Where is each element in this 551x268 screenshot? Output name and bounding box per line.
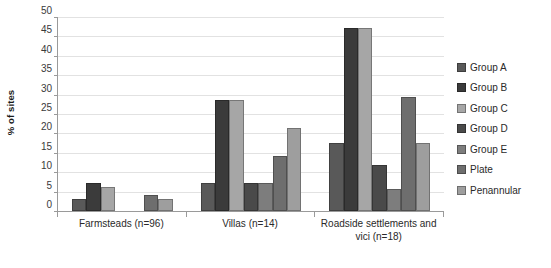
legend-item-label: Penannular — [470, 185, 521, 196]
y-axis-tick-label: 25 — [41, 103, 52, 113]
bar[interactable] — [158, 199, 172, 211]
plot-area — [57, 17, 444, 212]
bar-slot — [115, 17, 129, 211]
y-axis-tick-label: 35 — [41, 64, 52, 74]
legend-swatch-icon — [457, 104, 466, 113]
y-axis-tick-labels: 50454035302520151050 — [22, 11, 52, 211]
bar-slot — [416, 17, 430, 211]
y-axis-tick-label: 0 — [46, 200, 52, 210]
legend: Group AGroup BGroup CGroup DGroup EPlate… — [457, 57, 549, 201]
bar[interactable] — [358, 28, 372, 211]
x-axis-category-label: Roadside settlements and vici (n=18) — [314, 218, 443, 243]
bar-slot — [329, 17, 343, 211]
bar[interactable] — [401, 97, 415, 211]
y-axis-title: % of sites — [2, 0, 20, 225]
bar-slot — [401, 17, 415, 211]
bar[interactable] — [258, 183, 272, 211]
y-axis-tick-label: 15 — [41, 142, 52, 152]
bar-group — [315, 17, 444, 211]
legend-swatch-icon — [457, 145, 466, 154]
bar-slot — [158, 17, 172, 211]
legend-swatch-icon — [457, 83, 466, 92]
bar[interactable] — [416, 143, 430, 211]
legend-item[interactable]: Group D — [457, 119, 549, 140]
legend-item[interactable]: Penannular — [457, 180, 549, 201]
bar-slot — [387, 17, 401, 211]
y-axis-tick-label: 50 — [41, 6, 52, 16]
legend-item[interactable]: Group E — [457, 139, 549, 160]
y-axis-tick-label: 10 — [41, 161, 52, 171]
bar-slot — [72, 17, 86, 211]
bar-group — [187, 17, 316, 211]
x-axis-tick-mark — [186, 212, 187, 217]
y-axis-tick-label: 20 — [41, 122, 52, 132]
y-axis-title-label: % of sites — [6, 90, 17, 135]
bar[interactable] — [72, 199, 86, 211]
bar-slot — [372, 17, 386, 211]
legend-item-label: Group D — [470, 123, 508, 134]
bar-slot — [358, 17, 372, 211]
bar-slot — [287, 17, 301, 211]
legend-item-label: Plate — [470, 164, 493, 175]
bar[interactable] — [387, 189, 401, 211]
legend-swatch-icon — [457, 186, 466, 195]
x-axis-tick-marks — [57, 212, 444, 217]
x-axis-category-labels: Farmsteads (n=96)Villas (n=14)Roadside s… — [57, 218, 443, 243]
bar[interactable] — [201, 183, 215, 211]
bar[interactable] — [273, 156, 287, 211]
y-axis-tick-label: 40 — [41, 45, 52, 55]
legend-swatch-icon — [457, 63, 466, 72]
x-axis-tick-mark — [443, 212, 444, 217]
y-axis-tick-label: 45 — [41, 25, 52, 35]
legend-item[interactable]: Plate — [457, 160, 549, 181]
bar-slot — [101, 17, 115, 211]
x-axis-category-label: Villas (n=14) — [186, 218, 315, 243]
bar[interactable] — [344, 28, 358, 211]
legend-item[interactable]: Group A — [457, 57, 549, 78]
bar-slot — [144, 17, 158, 211]
x-axis-tick-mark — [314, 212, 315, 217]
legend-swatch-icon — [457, 165, 466, 174]
legend-item-label: Group C — [470, 103, 508, 114]
bar-chart: % of sites 50454035302520151050 Farmstea… — [0, 0, 551, 268]
bar-slot — [273, 17, 287, 211]
bars-layer — [58, 17, 444, 211]
legend-item-label: Group E — [470, 144, 507, 155]
legend-item[interactable]: Group B — [457, 78, 549, 99]
bar[interactable] — [329, 143, 343, 211]
bar-slot — [344, 17, 358, 211]
bar[interactable] — [101, 187, 115, 211]
bar-slot — [130, 17, 144, 211]
legend-item[interactable]: Group C — [457, 98, 549, 119]
bar[interactable] — [244, 183, 258, 211]
legend-item-label: Group B — [470, 82, 507, 93]
bar[interactable] — [229, 100, 243, 211]
bar-group — [58, 17, 187, 211]
legend-swatch-icon — [457, 124, 466, 133]
bar-slot — [86, 17, 100, 211]
legend-item-label: Group A — [470, 62, 507, 73]
y-axis-tick-label: 5 — [46, 181, 52, 191]
bar-slot — [229, 17, 243, 211]
bar[interactable] — [372, 165, 386, 211]
bar-slot — [244, 17, 258, 211]
bar-slot — [201, 17, 215, 211]
bar[interactable] — [86, 183, 100, 211]
bar[interactable] — [144, 195, 158, 211]
bar[interactable] — [215, 100, 229, 211]
bar[interactable] — [287, 128, 301, 211]
bar-slot — [215, 17, 229, 211]
bar-slot — [258, 17, 272, 211]
y-axis-tick-label: 30 — [41, 84, 52, 94]
x-axis-category-label: Farmsteads (n=96) — [57, 218, 186, 243]
x-axis-tick-mark — [57, 212, 58, 217]
